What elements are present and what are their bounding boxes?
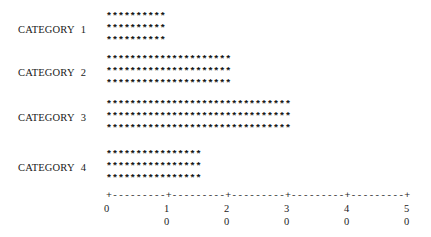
category-label-2: CATEGORY2 (18, 67, 104, 78)
tick-digit-bottom: 0 (344, 215, 358, 228)
tick-digit-top: 2 (224, 202, 238, 215)
tick-digit-bottom: 0 (404, 215, 418, 228)
bar-line: ********************* (106, 66, 231, 78)
category-label-1: CATEGORY1 (18, 24, 104, 35)
bar-line: **************** (106, 161, 201, 173)
tick-digit-bottom: 0 (224, 215, 238, 228)
bar-line: ******************************* (106, 99, 291, 111)
x-axis-tick-labels: 0 10 20 30 40 50 (106, 202, 431, 236)
bar-line: ********************* (106, 78, 231, 90)
tick-digit-top: 1 (164, 202, 178, 215)
x-tick-label-30: 30 (284, 202, 298, 228)
chart-row-category-2: CATEGORY2 ********************* ********… (0, 53, 431, 91)
bar-line: ******************************* (106, 123, 291, 135)
category-label-text-4: CATEGORY (18, 162, 75, 173)
x-tick-label-50: 50 (404, 202, 418, 228)
bar-line: ********** (106, 35, 166, 47)
bar-category-2: ********************* ******************… (106, 53, 231, 91)
category-label-4: CATEGORY4 (18, 162, 104, 173)
tick-digit-top: 3 (284, 202, 298, 215)
bar-line: **************** (106, 173, 201, 185)
x-tick-label-0: 0 (104, 202, 118, 215)
bar-line: ********** (106, 23, 166, 35)
category-label-text-1: CATEGORY (18, 24, 75, 35)
category-label-number-2: 2 (81, 67, 86, 78)
category-label-number-3: 3 (81, 112, 86, 123)
bar-category-1: ********** ********** ********** (106, 10, 166, 48)
bar-category-3: ******************************* ********… (106, 98, 291, 136)
x-axis: +---------+---------+---------+---------… (106, 190, 431, 237)
x-axis-line: +---------+---------+---------+---------… (106, 190, 431, 201)
tick-digit-top: 5 (404, 202, 418, 215)
bar-line: ********** (106, 11, 166, 23)
category-label-text-2: CATEGORY (18, 67, 75, 78)
tick-digit-bottom: 0 (284, 215, 298, 228)
x-tick-label-40: 40 (344, 202, 358, 228)
bar-line: **************** (106, 149, 201, 161)
category-label-text-3: CATEGORY (18, 112, 75, 123)
category-label-number-4: 4 (81, 162, 86, 173)
category-label-3: CATEGORY3 (18, 112, 104, 123)
tick-digit-top: 0 (104, 202, 118, 215)
chart-row-category-1: CATEGORY1 ********** ********** ********… (0, 10, 431, 48)
bar-line: ********************* (106, 54, 231, 66)
x-tick-label-10: 10 (164, 202, 178, 228)
bar-line: ******************************* (106, 111, 291, 123)
bar-category-4: **************** **************** ******… (106, 148, 201, 186)
ascii-bar-chart: CATEGORY1 ********** ********** ********… (0, 0, 431, 237)
category-label-number-1: 1 (81, 24, 86, 35)
chart-row-category-4: CATEGORY4 **************** *************… (0, 148, 431, 186)
tick-digit-top: 4 (344, 202, 358, 215)
tick-digit-bottom: 0 (164, 215, 178, 228)
chart-row-category-3: CATEGORY3 ******************************… (0, 98, 431, 136)
x-tick-label-20: 20 (224, 202, 238, 228)
